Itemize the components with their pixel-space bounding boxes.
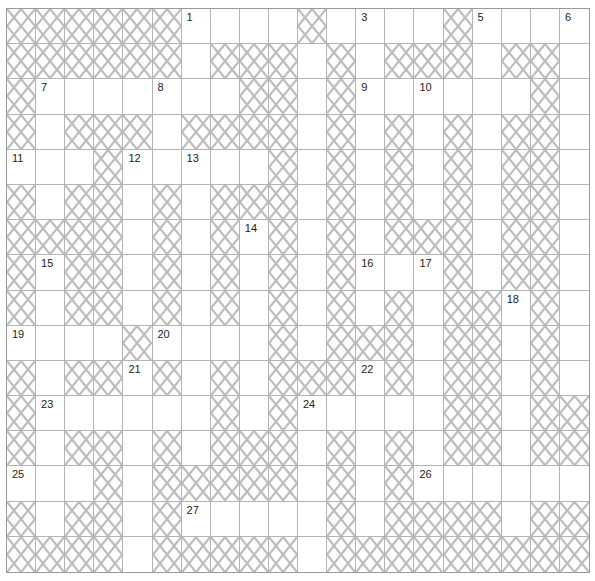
answer-cell[interactable]: 11 [7,150,36,185]
answer-cell[interactable] [211,502,240,537]
answer-cell[interactable] [240,502,269,537]
answer-cell[interactable] [414,9,443,44]
answer-cell[interactable] [211,150,240,185]
answer-cell[interactable] [298,150,327,185]
answer-cell[interactable] [123,255,152,290]
answer-cell[interactable] [356,44,385,79]
answer-cell[interactable] [240,326,269,361]
answer-cell[interactable] [385,396,414,431]
answer-cell[interactable] [94,396,123,431]
answer-cell[interactable] [269,9,298,44]
answer-cell[interactable] [298,431,327,466]
answer-cell[interactable] [123,502,152,537]
answer-cell[interactable] [385,9,414,44]
answer-cell[interactable] [36,431,65,466]
answer-cell[interactable] [473,79,502,114]
answer-cell[interactable] [502,466,531,501]
answer-cell[interactable] [182,396,211,431]
answer-cell[interactable] [560,185,589,220]
answer-cell[interactable] [560,255,589,290]
answer-cell[interactable]: 9 [356,79,385,114]
answer-cell[interactable] [327,396,356,431]
answer-cell[interactable] [414,185,443,220]
answer-cell[interactable] [240,9,269,44]
answer-cell[interactable]: 5 [473,9,502,44]
answer-cell[interactable] [211,326,240,361]
answer-cell[interactable]: 21 [123,361,152,396]
answer-cell[interactable] [356,431,385,466]
answer-cell[interactable]: 13 [182,150,211,185]
answer-cell[interactable]: 22 [356,361,385,396]
answer-cell[interactable] [414,326,443,361]
answer-cell[interactable] [444,79,473,114]
answer-cell[interactable]: 27 [182,502,211,537]
answer-cell[interactable] [269,502,298,537]
answer-cell[interactable] [65,150,94,185]
answer-cell[interactable] [356,502,385,537]
answer-cell[interactable] [240,291,269,326]
answer-cell[interactable] [560,150,589,185]
answer-cell[interactable] [240,255,269,290]
answer-cell[interactable]: 1 [182,9,211,44]
answer-cell[interactable] [240,361,269,396]
answer-cell[interactable] [473,44,502,79]
answer-cell[interactable] [385,255,414,290]
answer-cell[interactable] [414,291,443,326]
answer-cell[interactable] [123,396,152,431]
answer-cell[interactable] [473,115,502,150]
answer-cell[interactable] [36,291,65,326]
answer-cell[interactable] [298,79,327,114]
answer-cell[interactable] [298,185,327,220]
answer-cell[interactable] [473,150,502,185]
answer-cell[interactable] [414,115,443,150]
answer-cell[interactable]: 8 [153,79,182,114]
answer-cell[interactable] [182,361,211,396]
answer-cell[interactable] [414,396,443,431]
answer-cell[interactable] [502,79,531,114]
answer-cell[interactable] [65,326,94,361]
answer-cell[interactable] [123,466,152,501]
answer-cell[interactable] [298,44,327,79]
answer-cell[interactable] [414,361,443,396]
answer-cell[interactable] [298,115,327,150]
answer-cell[interactable] [182,326,211,361]
answer-cell[interactable] [502,361,531,396]
answer-cell[interactable]: 18 [502,291,531,326]
answer-cell[interactable] [560,291,589,326]
answer-cell[interactable] [356,396,385,431]
answer-cell[interactable] [356,220,385,255]
answer-cell[interactable] [502,431,531,466]
answer-cell[interactable] [36,502,65,537]
answer-cell[interactable] [356,291,385,326]
answer-cell[interactable] [356,115,385,150]
answer-cell[interactable] [560,466,589,501]
answer-cell[interactable] [94,326,123,361]
answer-cell[interactable] [298,466,327,501]
answer-cell[interactable]: 24 [298,396,327,431]
answer-cell[interactable] [560,79,589,114]
answer-cell[interactable]: 6 [560,9,589,44]
answer-cell[interactable] [94,79,123,114]
answer-cell[interactable] [36,326,65,361]
answer-cell[interactable]: 15 [36,255,65,290]
answer-cell[interactable] [153,396,182,431]
answer-cell[interactable] [298,502,327,537]
answer-cell[interactable] [153,150,182,185]
answer-cell[interactable] [182,79,211,114]
answer-cell[interactable] [298,537,327,572]
answer-cell[interactable] [414,431,443,466]
answer-cell[interactable] [123,431,152,466]
answer-cell[interactable]: 16 [356,255,385,290]
answer-cell[interactable]: 10 [414,79,443,114]
answer-cell[interactable] [65,466,94,501]
answer-cell[interactable] [36,185,65,220]
answer-cell[interactable] [123,537,152,572]
answer-cell[interactable] [414,150,443,185]
answer-cell[interactable]: 23 [36,396,65,431]
answer-cell[interactable]: 25 [7,466,36,501]
answer-cell[interactable] [36,466,65,501]
answer-cell[interactable]: 26 [414,466,443,501]
answer-cell[interactable] [36,115,65,150]
answer-cell[interactable] [502,396,531,431]
answer-cell[interactable] [123,220,152,255]
